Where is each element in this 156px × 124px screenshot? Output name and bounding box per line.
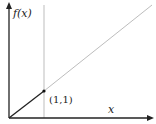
- point-label: (1,1): [49, 94, 73, 105]
- function-diagram: f(x) x (1,1): [0, 0, 156, 124]
- x-axis-arrow-icon: [147, 115, 154, 121]
- y-axis-arrow-icon: [6, 2, 12, 9]
- point-1-1: [42, 89, 45, 92]
- function-line-0-to-1: [9, 91, 44, 118]
- y-axis-label: f(x): [12, 7, 32, 20]
- function-line-beyond-1: [44, 5, 152, 91]
- x-axis-label: x: [108, 103, 115, 116]
